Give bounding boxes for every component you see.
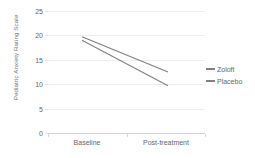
y-axis-tick-label: 25 [29, 8, 43, 15]
legend-label-zoloft: Zoloft [217, 66, 235, 73]
series-line-zoloft [82, 37, 168, 72]
line-chart: Pediatric Anxiety Rating Scale 051015202… [0, 0, 255, 158]
series-line-placebo [82, 40, 168, 85]
legend-line-icon-zoloft [206, 68, 215, 70]
series-lines [48, 11, 205, 133]
legend-line-icon-placebo [206, 80, 215, 82]
x-axis-tick-mark [205, 134, 206, 137]
y-axis-tick-label: 20 [29, 32, 43, 39]
x-axis-tick-mark [48, 134, 49, 137]
x-axis-tick-mark [127, 134, 128, 137]
x-axis-tick-label: Post-treatment [143, 139, 189, 146]
x-axis-tick-label: Baseline [74, 139, 101, 146]
plot-area [48, 11, 205, 133]
y-axis-title: Pediatric Anxiety Rating Scale [12, 0, 19, 117]
y-axis-tick-label: 10 [29, 81, 43, 88]
y-axis-tick-label: 15 [29, 56, 43, 63]
legend-label-placebo: Placebo [217, 78, 242, 85]
y-axis-tick-label: 5 [29, 105, 43, 112]
y-axis-tick-label: 0 [29, 130, 43, 137]
legend-item-zoloft: Zoloft [206, 63, 242, 75]
legend-item-placebo: Placebo [206, 75, 242, 87]
legend: Zoloft Placebo [206, 63, 242, 87]
